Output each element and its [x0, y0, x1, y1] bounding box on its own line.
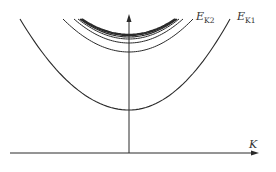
label-ek2-sub: K2 [204, 16, 215, 25]
label-ek1: EK1 [236, 10, 255, 25]
label-ek2: EK2 [195, 10, 215, 25]
label-k-axis: K [248, 138, 258, 151]
k-axis-arrow-icon [251, 151, 259, 156]
energy-axis-arrow-icon [127, 14, 132, 22]
curve-e-k1 [20, 19, 230, 110]
label-ek1-sub: K1 [245, 16, 255, 25]
dispersion-curves [20, 19, 230, 110]
k-axis [10, 151, 259, 156]
label-ek1-main: E [236, 10, 245, 23]
exciton-dispersion-diagram: EK2 EK1 K [0, 0, 276, 172]
label-ek2-main: E [195, 10, 204, 23]
